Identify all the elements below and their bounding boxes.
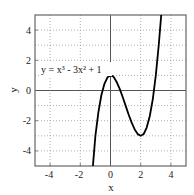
x-tick-labels: -4 -2 0 2 4 [45,169,174,180]
x-tick-4: 4 [168,169,173,180]
y-tick-neg4: -4 [23,145,31,156]
x-axis-title: x [108,181,114,193]
x-tick-neg4: -4 [45,169,53,180]
y-tick-4: 4 [26,25,31,36]
y-tick-2: 2 [26,55,31,66]
y-axis-title: y [7,87,19,93]
x-tick-0: 0 [108,169,113,180]
y-tick-0: 0 [26,85,31,96]
x-tick-neg2: -2 [75,169,83,180]
y-tick-neg2: -2 [23,115,31,126]
x-tick-2: 2 [138,169,143,180]
equation-annotation: y = x³ - 3x² + 1 [41,64,102,75]
y-tick-labels: 4 2 0 -2 -4 [23,25,31,157]
chart: y = x³ - 3x² + 1 4 2 0 -2 -4 -4 -2 0 2 4… [0,0,194,195]
